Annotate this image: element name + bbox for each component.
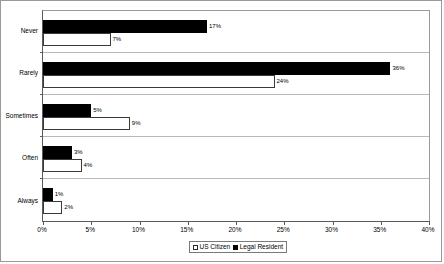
bar-legal-resident-sometimes <box>43 104 91 117</box>
x-axis-tick <box>236 221 237 225</box>
y-axis-label-often: Often <box>22 155 38 162</box>
x-axis-tick <box>429 221 430 225</box>
y-axis-label-rarely: Rarely <box>19 70 38 77</box>
bar-us-citizen-rarely <box>43 75 275 88</box>
y-axis-label-sometimes: Sometimes <box>5 113 38 120</box>
group-separator <box>43 136 429 137</box>
chart-legend: US Citizen Legal Resident <box>189 241 287 253</box>
bar-us-citizen-always <box>43 201 62 214</box>
y-axis-tick <box>40 94 43 95</box>
bar-value-us-citizen-often: 4% <box>84 162 93 168</box>
x-axis-tick-label: 5% <box>86 227 95 234</box>
x-axis-tick-label: 35% <box>373 227 386 234</box>
bar-value-legal-resident-never: 17% <box>209 23 221 29</box>
x-axis-tick <box>188 221 189 225</box>
bar-legal-resident-never <box>43 20 207 33</box>
x-axis-tick-label: 40% <box>421 227 434 234</box>
bar-value-legal-resident-often: 3% <box>74 149 83 155</box>
bar-value-us-citizen-never: 7% <box>113 36 122 42</box>
x-axis-tick <box>333 221 334 225</box>
bar-value-legal-resident-always: 1% <box>55 191 64 197</box>
x-axis-tick <box>91 221 92 225</box>
bar-legal-resident-often <box>43 146 72 159</box>
hollow-square-icon <box>193 245 198 250</box>
bar-us-citizen-often <box>43 159 82 172</box>
bar-value-us-citizen-always: 2% <box>64 204 73 210</box>
bar-legal-resident-always <box>43 188 53 201</box>
bar-us-citizen-never <box>43 33 111 46</box>
y-axis-label-always: Always <box>17 198 38 205</box>
x-axis-tick <box>43 221 44 225</box>
x-axis-tick-label: 30% <box>325 227 338 234</box>
x-axis-labels: 0% 5% 10% 15% 20% 25% 30% 35% 40% <box>42 227 430 237</box>
chart-container: Never Rarely Sometimes Often Always 17% … <box>0 0 442 262</box>
group-separator <box>43 52 429 53</box>
legend-item-legal-resident: Legal Resident <box>233 244 283 251</box>
legend-label-legal-resident: Legal Resident <box>240 244 283 251</box>
bar-value-legal-resident-rarely: 36% <box>393 65 405 71</box>
group-separator <box>43 178 429 179</box>
legend-label-us-citizen: US Citizen <box>200 244 231 251</box>
group-separator <box>43 94 429 95</box>
y-axis-tick <box>40 136 43 137</box>
y-axis-labels: Never Rarely Sometimes Often Always <box>1 10 38 222</box>
filled-square-icon <box>233 245 238 250</box>
x-axis-tick-label: 15% <box>180 227 193 234</box>
bar-legal-resident-rarely <box>43 62 390 75</box>
legend-item-us-citizen: US Citizen <box>193 244 230 251</box>
bar-value-us-citizen-rarely: 24% <box>277 78 289 84</box>
plot-area: 17% 7% 36% 24% 5% 9% 3% 4% 1% 2% <box>42 10 430 222</box>
y-axis-label-never: Never <box>21 28 38 35</box>
x-axis-tick <box>284 221 285 225</box>
bar-value-us-citizen-sometimes: 9% <box>132 120 141 126</box>
y-axis-tick <box>40 178 43 179</box>
y-axis-tick <box>40 52 43 53</box>
bar-us-citizen-sometimes <box>43 117 130 130</box>
x-axis-tick <box>140 221 141 225</box>
x-axis-tick <box>381 221 382 225</box>
x-axis-tick-label: 25% <box>277 227 290 234</box>
x-axis-tick-label: 20% <box>228 227 241 234</box>
x-axis-tick-label: 10% <box>132 227 145 234</box>
bar-value-legal-resident-sometimes: 5% <box>93 107 102 113</box>
x-axis-tick-label: 0% <box>37 227 46 234</box>
